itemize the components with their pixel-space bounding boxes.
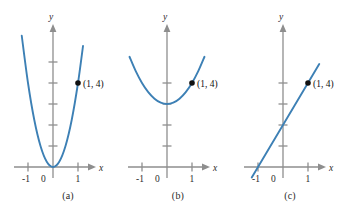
x-tick-label-1-a: 1 <box>76 174 81 184</box>
point-label-c: (1, 4) <box>313 79 334 90</box>
x-tick-label-minus1-c: -1 <box>252 174 260 184</box>
y-axis-label-a: y <box>48 12 54 22</box>
graph-panel-a: x y -1 0 1 (1, 4) (a) <box>0 0 116 218</box>
x-tick-label-minus1-b: -1 <box>136 174 144 184</box>
panel-caption-a: (a) <box>0 190 126 201</box>
x-tick-label-minus1-a: -1 <box>22 174 30 184</box>
x-axis-label-a: x <box>98 163 104 173</box>
x-axis-label-c: x <box>328 163 334 173</box>
panel-caption-c: (c) <box>230 190 348 201</box>
x-axis-label-b: x <box>212 163 218 173</box>
x-axis-arrowhead-b <box>202 164 210 171</box>
point-label-a: (1, 4) <box>83 79 104 90</box>
point-label-b: (1, 4) <box>197 79 218 90</box>
data-point-a <box>75 80 81 86</box>
x-tick-label-1-b: 1 <box>190 174 195 184</box>
graph-panel-b: x y -1 0 1 (1, 4) (b) <box>114 0 230 218</box>
y-axis-label-c: y <box>278 12 284 22</box>
data-point-c <box>305 80 311 86</box>
plot-a: x y -1 0 1 (1, 4) <box>0 0 116 190</box>
y-axis-arrowhead-a <box>50 24 57 32</box>
y-axis-arrowhead-c <box>280 24 287 32</box>
panel-caption-b: (b) <box>114 190 236 201</box>
x-tick-label-1-c: 1 <box>306 174 311 184</box>
figure-three-graphs: x y -1 0 1 (1, 4) (a) <box>0 0 350 218</box>
x-axis-arrowhead-c <box>318 164 326 171</box>
y-axis-label-b: y <box>162 12 168 22</box>
data-point-b <box>189 80 195 86</box>
y-axis-arrowhead-b <box>164 24 171 32</box>
x-tick-label-0-a: 0 <box>41 174 46 184</box>
x-tick-label-0-c: 0 <box>271 174 276 184</box>
x-tick-label-0-b: 0 <box>155 174 160 184</box>
graph-panel-c: x y -1 0 1 (1, 4) (c) <box>230 0 346 218</box>
x-axis-arrowhead-a <box>88 164 96 171</box>
plot-c: x y -1 0 1 (1, 4) <box>230 0 346 190</box>
plot-b: x y -1 0 1 (1, 4) <box>114 0 230 190</box>
